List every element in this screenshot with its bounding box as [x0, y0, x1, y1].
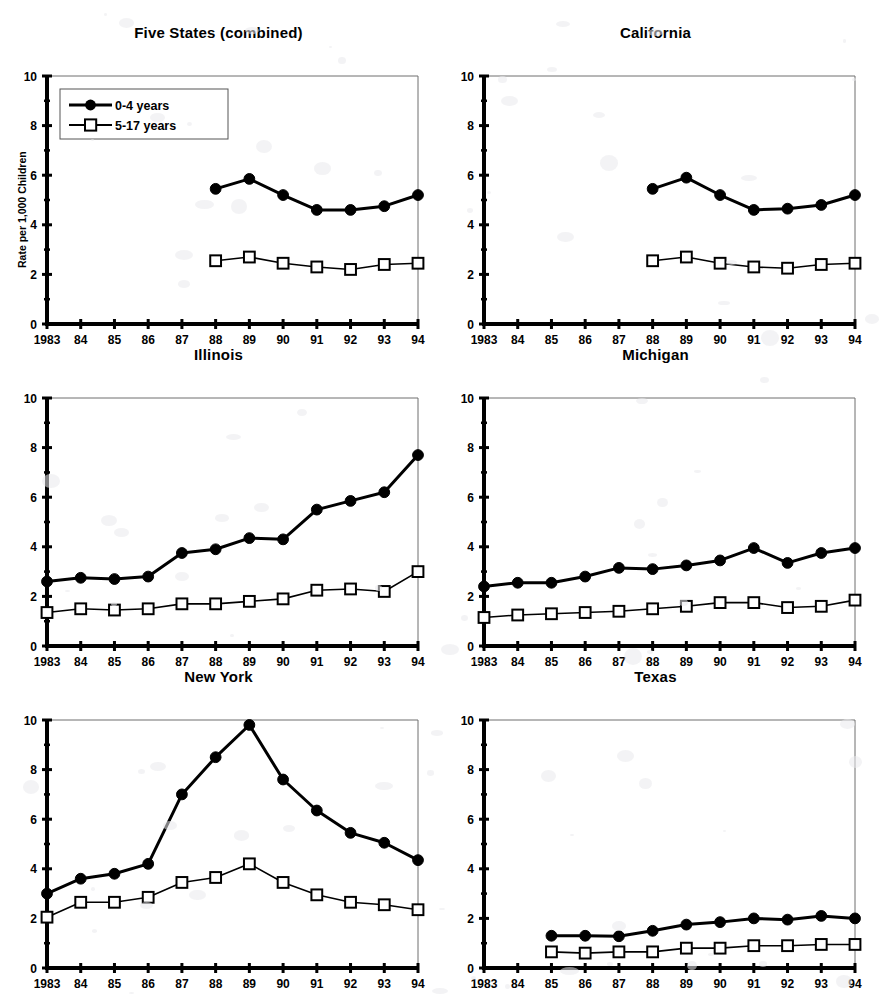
data-point-5-17-years — [278, 877, 289, 888]
plot-california: 024681019838485868788899091929394 — [437, 44, 874, 344]
data-point-0-4-years — [413, 450, 424, 461]
data-point-5-17-years — [345, 264, 356, 275]
x-tick-label: 94 — [411, 655, 425, 666]
plot-michigan: 024681019838485868788899091929394 — [437, 366, 874, 666]
data-point-0-4-years — [782, 203, 793, 214]
data-point-5-17-years — [715, 258, 726, 269]
panel-title-new-york: New York — [0, 668, 437, 686]
y-tick-label: 8 — [30, 763, 37, 777]
y-tick-label: 6 — [467, 491, 474, 505]
x-tick-label: 85 — [108, 977, 122, 988]
plot-five-states: 0246810198384858687888990919293940-4 yea… — [0, 44, 437, 344]
data-point-5-17-years — [614, 946, 625, 957]
x-tick-label: 90 — [713, 977, 727, 988]
data-point-0-4-years — [109, 574, 120, 585]
y-tick-label: 0 — [467, 962, 474, 976]
x-tick-label: 93 — [378, 333, 392, 344]
data-point-5-17-years — [109, 897, 120, 908]
x-tick-label: 85 — [545, 655, 559, 666]
y-tick-label: 4 — [467, 862, 474, 876]
y-tick-label: 6 — [30, 169, 37, 183]
x-tick-label: 88 — [209, 977, 223, 988]
x-tick-label: 89 — [243, 655, 257, 666]
y-tick-label: 6 — [30, 813, 37, 827]
data-point-0-4-years — [512, 577, 523, 588]
x-tick-label: 84 — [511, 333, 525, 344]
data-point-0-4-years — [210, 544, 221, 555]
x-tick-label: 91 — [747, 655, 761, 666]
data-point-0-4-years — [210, 183, 221, 194]
x-tick-label: 93 — [815, 655, 829, 666]
legend: 0-4 years5-17 years — [60, 89, 228, 139]
data-point-5-17-years — [715, 943, 726, 954]
data-point-5-17-years — [177, 598, 188, 609]
x-tick-label: 90 — [276, 977, 290, 988]
data-point-5-17-years — [816, 259, 827, 270]
y-tick-label: 10 — [24, 70, 38, 84]
data-point-0-4-years — [143, 858, 154, 869]
legend-marker-5-17-years — [85, 119, 96, 130]
plot-illinois: 024681019838485868788899091929394 — [0, 366, 437, 666]
x-tick-label: 86 — [142, 333, 156, 344]
x-tick-label: 91 — [747, 977, 761, 988]
y-tick-label: 0 — [30, 640, 37, 654]
data-point-5-17-years — [782, 940, 793, 951]
series-line-1 — [484, 600, 855, 617]
data-point-5-17-years — [782, 263, 793, 274]
data-point-0-4-years — [782, 914, 793, 925]
x-tick-label: 86 — [579, 333, 593, 344]
data-point-0-4-years — [647, 925, 658, 936]
data-point-0-4-years — [614, 931, 625, 942]
y-tick-label: 8 — [467, 763, 474, 777]
panel-title-texas: Texas — [437, 668, 874, 686]
data-point-5-17-years — [816, 939, 827, 950]
series-line-0 — [47, 455, 418, 581]
panel-texas: Texas 024681019838485868788899091929394 — [437, 668, 874, 998]
data-point-0-4-years — [479, 581, 490, 592]
x-tick-label: 92 — [344, 655, 358, 666]
data-point-0-4-years — [379, 201, 390, 212]
data-point-5-17-years — [647, 603, 658, 614]
x-tick-label: 84 — [511, 655, 525, 666]
data-point-0-4-years — [413, 855, 424, 866]
x-tick-label: 90 — [713, 655, 727, 666]
data-point-0-4-years — [647, 564, 658, 575]
data-point-0-4-years — [715, 917, 726, 928]
data-point-5-17-years — [75, 897, 86, 908]
panel-title-illinois: Illinois — [0, 346, 437, 364]
panel-title-michigan: Michigan — [437, 346, 874, 364]
data-point-0-4-years — [379, 837, 390, 848]
panel-title-california: California — [437, 24, 874, 42]
y-tick-label: 6 — [30, 491, 37, 505]
panel-new-york: New York 0246810198384858687888990919293… — [0, 668, 437, 998]
data-point-0-4-years — [715, 190, 726, 201]
y-tick-label: 2 — [30, 912, 37, 926]
x-tick-label: 91 — [310, 333, 324, 344]
data-point-5-17-years — [379, 259, 390, 270]
data-point-5-17-years — [413, 904, 424, 915]
x-tick-label: 1983 — [34, 655, 61, 666]
y-tick-label: 0 — [30, 962, 37, 976]
data-point-5-17-years — [647, 946, 658, 957]
data-point-0-4-years — [715, 555, 726, 566]
data-point-5-17-years — [311, 889, 322, 900]
y-tick-label: 0 — [30, 318, 37, 332]
y-tick-label: 10 — [24, 392, 38, 406]
x-tick-label: 1983 — [471, 333, 498, 344]
data-point-0-4-years — [311, 504, 322, 515]
y-tick-label: 2 — [467, 590, 474, 604]
x-tick-label: 90 — [713, 333, 727, 344]
data-point-0-4-years — [816, 200, 827, 211]
data-point-0-4-years — [748, 913, 759, 924]
x-tick-label: 89 — [680, 655, 694, 666]
data-point-0-4-years — [379, 487, 390, 498]
x-tick-label: 84 — [74, 977, 88, 988]
data-point-5-17-years — [413, 566, 424, 577]
data-point-5-17-years — [681, 943, 692, 954]
data-point-5-17-years — [42, 607, 53, 618]
data-point-5-17-years — [278, 593, 289, 604]
data-point-0-4-years — [278, 190, 289, 201]
data-point-5-17-years — [210, 872, 221, 883]
x-tick-label: 84 — [74, 655, 88, 666]
